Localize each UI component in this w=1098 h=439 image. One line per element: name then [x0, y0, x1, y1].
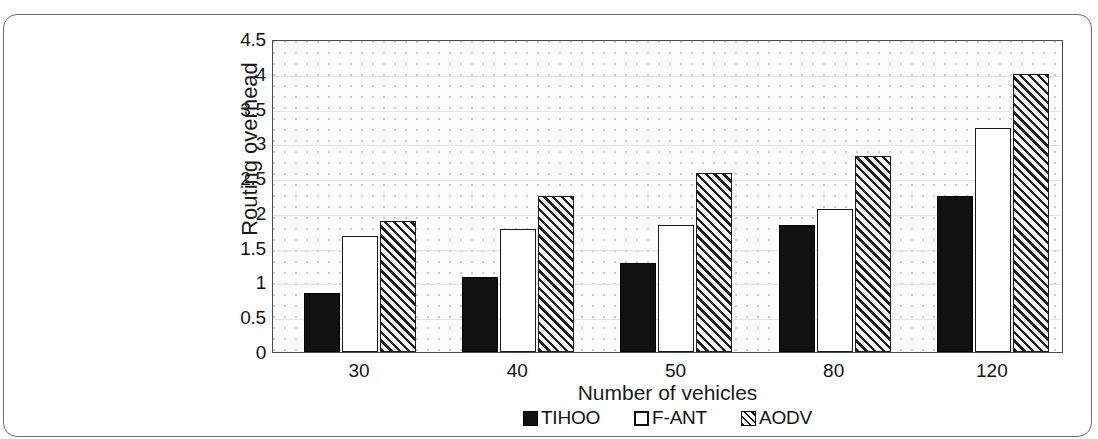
y-tick-label: 0.5	[208, 307, 266, 329]
legend-item-f-ant[interactable]: F-ANT	[634, 407, 707, 429]
bar-aodv-40	[538, 196, 574, 353]
y-tick-label: 4	[208, 64, 266, 86]
bar-tihoo-30	[304, 293, 340, 352]
y-axis-tick-labels: 00.511.522.533.544.5	[204, 40, 266, 353]
legend-label: TIHOO	[541, 407, 600, 429]
bar-f-ant-50	[658, 225, 694, 352]
legend-label: AODV	[759, 407, 812, 429]
chart-legend: TIHOOF-ANTAODV	[272, 407, 1063, 429]
legend-swatch-f-ant-icon	[634, 411, 649, 426]
bar-group	[906, 41, 1063, 352]
x-tick-label-120: 120	[976, 360, 1008, 382]
legend-swatch-tihoo-icon	[523, 411, 538, 426]
x-tick-label-80: 80	[823, 360, 844, 382]
plot-area	[272, 40, 1063, 353]
bar-f-ant-30	[342, 236, 378, 352]
y-tick-label: 1.5	[208, 238, 266, 260]
bar-tihoo-50	[620, 263, 656, 352]
bar-f-ant-120	[975, 128, 1011, 352]
legend-item-tihoo[interactable]: TIHOO	[523, 407, 600, 429]
x-tick-label-50: 50	[665, 360, 686, 382]
y-tick-label: 3.5	[208, 99, 266, 121]
bar-tihoo-80	[779, 225, 815, 352]
y-tick-label: 2.5	[208, 168, 266, 190]
y-tick-label: 4.5	[208, 29, 266, 51]
bar-tihoo-40	[462, 277, 498, 352]
x-axis-title: Number of vehicles	[272, 381, 1063, 405]
bar-group	[431, 41, 589, 352]
legend-item-aodv[interactable]: AODV	[741, 407, 812, 429]
bar-group	[748, 41, 906, 352]
bar-tihoo-120	[937, 196, 973, 353]
bar-aodv-50	[696, 173, 732, 352]
bar-aodv-80	[855, 156, 891, 352]
y-tick-label: 3	[208, 133, 266, 155]
x-tick-label-30: 30	[349, 360, 370, 382]
figure-panel: Routing overhead 00.511.522.533.544.5 30…	[0, 0, 1098, 439]
y-tick-label: 1	[208, 272, 266, 294]
x-tick-label-40: 40	[507, 360, 528, 382]
bar-group	[589, 41, 747, 352]
legend-label: F-ANT	[652, 407, 707, 429]
bar-group	[273, 41, 431, 352]
bar-aodv-120	[1013, 74, 1049, 352]
bar-f-ant-80	[817, 209, 853, 352]
legend-swatch-aodv-icon	[741, 411, 756, 426]
y-tick-label: 0	[208, 342, 266, 364]
bar-aodv-30	[380, 221, 416, 352]
y-tick-label: 2	[208, 203, 266, 225]
bar-f-ant-40	[500, 229, 536, 352]
